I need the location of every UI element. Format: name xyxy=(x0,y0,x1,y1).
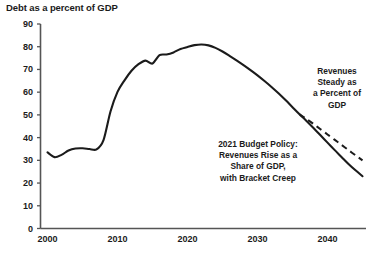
annotation-line: with Bracket Creep xyxy=(196,173,320,184)
annotation-line: Share of GDP, xyxy=(196,161,320,172)
annotation-line: Steady as xyxy=(306,77,368,88)
y-axis-tick-label: 60 xyxy=(11,87,33,97)
x-axis-tick-label: 2010 xyxy=(98,234,138,244)
x-axis-tick-label: 2030 xyxy=(238,234,278,244)
annotation-budget-policy: 2021 Budget Policy: Revenues Rise as a S… xyxy=(196,139,320,184)
annotation-line: GDP xyxy=(306,100,368,111)
chart-figure: Debt as a percent of GDP 010203040506070… xyxy=(0,0,368,259)
y-axis-tick-label: 50 xyxy=(11,110,33,120)
x-axis-tick-label: 2000 xyxy=(28,234,68,244)
annotation-line: Revenues Rise as a xyxy=(196,150,320,161)
y-axis-tick-label: 80 xyxy=(11,42,33,52)
annotation-revenues-steady: Revenues Steady as a Percent of GDP xyxy=(306,66,368,111)
x-axis-tick-label: 2040 xyxy=(308,234,348,244)
annotation-line: a Percent of xyxy=(306,88,368,99)
annotation-line: 2021 Budget Policy: xyxy=(196,139,320,150)
y-axis-tick-label: 0 xyxy=(11,224,33,234)
y-axis-tick-label: 30 xyxy=(11,155,33,165)
y-axis-tick-label: 40 xyxy=(11,133,33,143)
chart-plot-area xyxy=(0,0,368,259)
y-axis-tick-label: 70 xyxy=(11,64,33,74)
annotation-line: Revenues xyxy=(306,66,368,77)
y-axis-tick-label: 20 xyxy=(11,178,33,188)
y-axis-tick-label: 10 xyxy=(11,201,33,211)
y-axis-tick-label: 90 xyxy=(11,19,33,29)
chart-title: Debt as a percent of GDP xyxy=(6,2,118,13)
x-axis-tick-label: 2020 xyxy=(168,234,208,244)
